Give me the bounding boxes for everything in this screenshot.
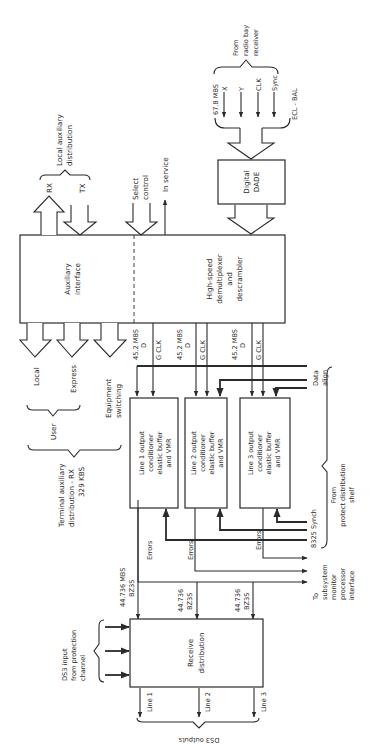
bus1-gclk-label: G CLK [155, 340, 163, 360]
svg-text:DS3 outputs: DS3 outputs [178, 736, 219, 744]
local-fat-arrow [20, 323, 51, 357]
svg-text:45.2 MBS: 45.2 MBS [231, 329, 239, 360]
svg-text:shelf: shelf [348, 486, 356, 503]
svg-text:CLK: CLK [255, 78, 263, 91]
svg-text:DS3 input: DS3 input [61, 648, 69, 681]
svg-text:ECL - BAL: ECL - BAL [291, 88, 299, 120]
dade-to-demux-arrow [228, 205, 274, 234]
svg-text:descrambler: descrambler [235, 256, 244, 301]
svg-text:and VMR: and VMR [165, 438, 173, 468]
signal-x-label: X [221, 86, 229, 91]
svg-text:Receive: Receive [186, 638, 195, 667]
svg-text:interface: interface [73, 262, 82, 295]
in-service-label: In service [161, 157, 170, 192]
ds3-rate-3-label: 44.736 BZ3S [234, 589, 251, 612]
svg-text:switching: switching [114, 384, 123, 418]
svg-text:monitor: monitor [330, 574, 338, 600]
protect-shelf-label: From protect distribution shelf [330, 463, 356, 526]
svg-text:Express: Express [69, 365, 78, 393]
svg-text:distribution: distribution [65, 125, 74, 166]
svg-text:elastic buffer: elastic buffer [208, 431, 216, 474]
synch-wire-3 [277, 509, 307, 522]
ds3-outputs-brace [137, 718, 259, 728]
svg-text:Terminal auxiliary: Terminal auxiliary [57, 463, 66, 528]
svg-text:In service: In service [161, 157, 170, 192]
block-diagram: Auxiliary interface High-speed demultipl… [0, 0, 381, 751]
svg-text:To: To [312, 593, 320, 601]
svg-text:329 KBS: 329 KBS [77, 466, 86, 497]
svg-text:distribution: distribution [197, 633, 206, 674]
svg-text:elastic buffer: elastic buffer [265, 431, 273, 474]
svg-text:G CLK: G CLK [199, 340, 207, 360]
svg-text:D: D [184, 343, 192, 348]
svg-text:45.2 MBS: 45.2 MBS [132, 329, 140, 360]
local-aux-label: Local auxiliary distribution [55, 114, 74, 166]
svg-text:DADE: DADE [252, 171, 261, 192]
svg-text:44.736: 44.736 [177, 589, 185, 612]
svg-text:Local: Local [32, 367, 41, 386]
input-brace-lower [215, 118, 290, 128]
line1-output-label: Line 1 [146, 692, 154, 712]
digital-dade-label: Digital DADE [242, 170, 261, 193]
signal-sync-label: Sync [271, 75, 279, 91]
from-radio-bay-label: From radio bay receiver [232, 25, 260, 56]
bus3-gclk-label: G CLK [255, 340, 263, 360]
svg-text:align: align [321, 370, 329, 386]
equipment-switching-label: Equipment switching [104, 379, 123, 418]
svg-text:Equipment: Equipment [104, 379, 113, 418]
ds3-rate-1-label: 44.736 MBS BZ3S [119, 568, 136, 607]
svg-text:Line 3 output: Line 3 output [247, 431, 255, 475]
svg-text:Line 2: Line 2 [204, 692, 212, 712]
svg-text:and VMR: and VMR [217, 438, 225, 468]
errors-label-3: Errors [255, 530, 263, 550]
svg-text:and VMR: and VMR [274, 438, 282, 468]
svg-text:conditioner: conditioner [256, 434, 264, 472]
svg-text:Local auxiliary: Local auxiliary [55, 114, 64, 166]
data-align-wire-3 [276, 388, 307, 396]
svg-text:Errors: Errors [187, 540, 195, 560]
express-label: Express [69, 365, 78, 393]
svg-text:distribution - RX: distribution - RX [67, 469, 76, 527]
input-brace-upper [214, 60, 278, 74]
svg-text:BZ3S: BZ3S [128, 580, 136, 597]
svg-text:From: From [232, 40, 240, 56]
local-label: Local [32, 367, 41, 386]
svg-text:Line 1: Line 1 [146, 692, 154, 712]
svg-text:X: X [221, 86, 229, 91]
svg-text:Sync: Sync [271, 75, 279, 91]
protect-shelf-brace [321, 367, 332, 548]
svg-text:receiver: receiver [252, 29, 260, 56]
bus1-label: 45.2 MBS D [132, 329, 148, 360]
user-label: User [49, 424, 58, 440]
main-interface-box [20, 235, 285, 323]
local-aux-brace [40, 170, 90, 180]
svg-text:elastic buffer: elastic buffer [156, 431, 164, 474]
svg-text:TX: TX [78, 184, 87, 194]
svg-text:Line 1 output: Line 1 output [138, 431, 146, 475]
user-brace [27, 405, 80, 416]
line3-output-label: Line 3 [260, 692, 268, 712]
svg-text:radio bay: radio bay [242, 25, 250, 56]
svg-text:conditioner: conditioner [147, 434, 155, 472]
tx-fat-arrow [64, 205, 96, 235]
rate-67-label: 67.8 MBS [212, 84, 220, 115]
svg-text:Errors: Errors [255, 530, 263, 550]
svg-text:D: D [140, 343, 148, 348]
svg-text:G CLK: G CLK [155, 340, 163, 360]
svg-text:Auxiliary: Auxiliary [63, 263, 72, 295]
terminal-aux-label: Terminal auxiliary distribution - RX 329… [57, 463, 86, 528]
svg-text:Y: Y [238, 86, 246, 92]
svg-text:BZ3S: BZ3S [243, 593, 251, 610]
ds3-rate-2-label: 44.736 BZ3S [177, 589, 194, 612]
svg-text:control: control [141, 175, 150, 200]
svg-text:interface: interface [348, 571, 356, 600]
select-control-arrow [126, 203, 157, 235]
select-control-label: Select control [131, 175, 150, 200]
ecl-bal-label: ECL - BAL [291, 88, 299, 120]
terminal-aux-brace [28, 445, 121, 457]
line2-output-label: Line 2 [204, 692, 212, 712]
errors-label-2: Errors [187, 540, 195, 560]
svg-text:From: From [330, 487, 338, 503]
svg-text:BZ3S: BZ3S [186, 593, 194, 610]
svg-text:demultiplexer: demultiplexer [215, 254, 224, 304]
